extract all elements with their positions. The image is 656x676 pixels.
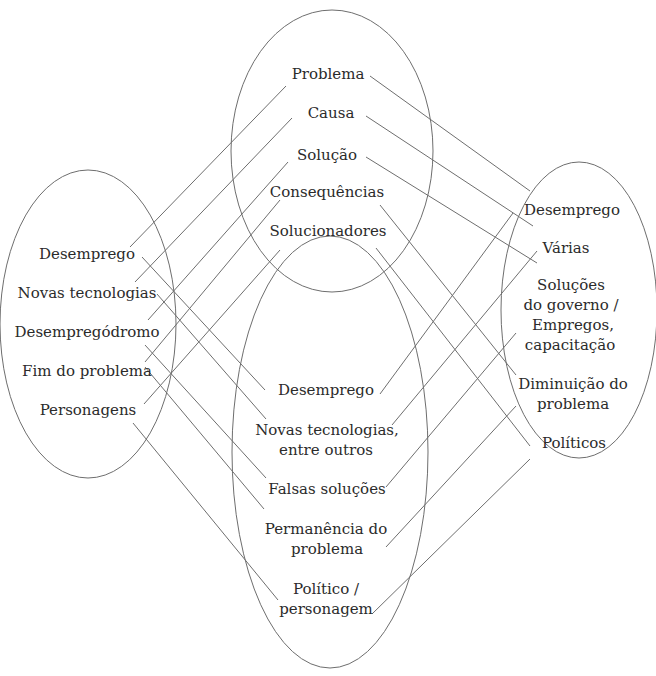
connector-bottom-permanencia-to-diminuicao	[386, 406, 516, 547]
left-item-desempregodromo: Desempregódromo	[14, 323, 159, 342]
connector-left-personagens-to-politico	[133, 423, 278, 600]
right-item-diminuicao-do: Diminuição do	[518, 375, 628, 394]
connector-top-consequencias-to-diminuicao	[380, 205, 516, 375]
bottom-item-permanencia-do: Permanência do	[265, 520, 387, 539]
connector-bottom-falsas-to-empregos	[386, 333, 516, 487]
top-item-solucionadores: Solucionadores	[270, 222, 387, 241]
bottom-item-novas-tecnologias: Novas tecnologias,	[255, 421, 399, 440]
left-item-fim-do-problema: Fim do problema	[22, 362, 152, 381]
connector-left-personagens-to-solucionadores	[144, 250, 280, 404]
top-item-problema: Problema	[292, 65, 365, 84]
bottom-item-politico: Político /	[293, 580, 359, 599]
bottom-item-entre-outros: entre outros	[279, 441, 373, 460]
right-item-desemprego: Desemprego	[524, 201, 620, 220]
left-item-personagens: Personagens	[40, 401, 137, 420]
right-item-do-governo: do governo /	[523, 296, 618, 315]
left-item-novas-tecnologias: Novas tecnologias	[18, 284, 157, 303]
right-item-varias: Várias	[542, 239, 589, 258]
top-item-causa: Causa	[308, 104, 355, 123]
connector-top-causa-to-varias	[366, 116, 533, 226]
connector-left-desempregodromo-to-solucao	[148, 162, 288, 320]
connector-left-desemprego-to-bottom-desemprego	[142, 257, 265, 390]
connector-left-novas-to-causa	[135, 118, 292, 282]
connector-left-fim-to-permanencia	[145, 367, 264, 509]
connector-left-fim-to-consequencias	[145, 200, 280, 362]
top-item-consequencias: Consequências	[270, 183, 384, 202]
connector-left-desemprego-to-problema	[130, 86, 286, 247]
bottom-item-problema: problema	[291, 540, 363, 559]
bottom-item-personagem: personagem	[279, 600, 373, 619]
top-item-solucao: Solução	[297, 146, 357, 165]
left-item-desemprego: Desemprego	[39, 245, 135, 264]
right-item-capacitacao: capacitação	[525, 336, 615, 355]
right-item-problema: problema	[537, 395, 609, 414]
connector-top-problema-to-right-desemprego	[370, 76, 530, 191]
right-item-solucoes: Soluções	[537, 276, 605, 295]
right-item-politicos: Políticos	[542, 434, 606, 453]
right-item-empregos: Empregos,	[532, 316, 614, 335]
bottom-item-desemprego: Desemprego	[278, 381, 374, 400]
connector-left-desempregodromo-to-falsas	[145, 345, 266, 478]
bottom-item-falsas-solucoes: Falsas soluções	[268, 480, 385, 499]
